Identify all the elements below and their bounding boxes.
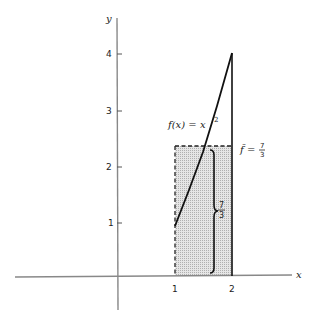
x-axis	[15, 275, 292, 277]
mean-numerator: 7	[260, 142, 264, 150]
function-label: f(x) = x	[167, 119, 206, 130]
ytick-1: 1	[108, 218, 114, 228]
xtick-2: 2	[229, 284, 235, 294]
chart: 4 3 2 1 1 2 y x 7 3 f(x) = x 2 f̄ = 7 3	[0, 0, 310, 318]
ytick-2: 2	[106, 162, 112, 172]
ytick-4: 4	[106, 49, 112, 59]
y-axis-label: y	[105, 13, 112, 24]
brace-numerator: 7	[219, 201, 224, 210]
ytick-3: 3	[106, 106, 112, 116]
xtick-1: 1	[172, 284, 178, 294]
function-label-exponent: 2	[214, 116, 218, 124]
mean-denominator: 3	[260, 151, 264, 159]
brace-denominator: 3	[219, 211, 224, 220]
mean-value-label: f̄ =	[239, 144, 255, 155]
x-axis-label: x	[296, 269, 302, 280]
y-axis	[117, 18, 118, 310]
